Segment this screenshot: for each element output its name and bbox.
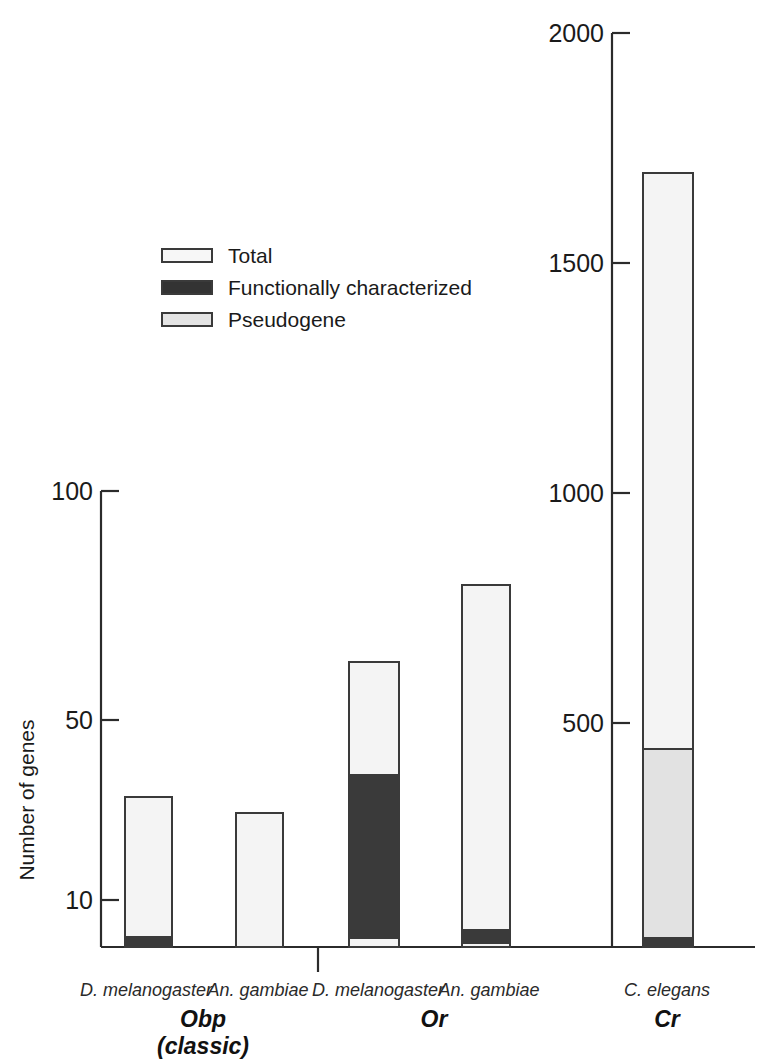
left-axis-title: Number of genes	[15, 719, 38, 880]
legend-item-total[interactable]: Total	[162, 244, 272, 267]
left-tick-label-100: 100	[51, 477, 93, 505]
bar-segment-total[interactable]	[125, 797, 172, 947]
bar-segment-functionally-characterized[interactable]	[349, 775, 399, 938]
bar-segment-pseudogene[interactable]	[643, 749, 693, 947]
bar-obp-an-gambiae[interactable]	[236, 813, 283, 947]
right-tick-label-500: 500	[562, 709, 604, 737]
legend-swatch-pseudogene	[162, 313, 212, 326]
legend-item-pseudogene[interactable]: Pseudogene	[162, 308, 346, 331]
legend-label-functionally-characterized: Functionally characterized	[228, 276, 472, 299]
category-label-or-an-gambiae: An. gambiae	[437, 980, 539, 1000]
bar-segment-functionally-characterized[interactable]	[462, 930, 510, 943]
bar-or-d-melanogaster[interactable]	[349, 662, 399, 947]
group-label-obp-sub: (classic)	[157, 1033, 249, 1059]
bar-obp-d-melanogaster[interactable]	[125, 797, 172, 947]
group-label-or: Or	[421, 1006, 449, 1032]
legend-label-total: Total	[228, 244, 272, 267]
figure-canvas: 100 50 10 Number of genes 2000 1500 1000…	[0, 0, 765, 1060]
legend-item-functionally-characterized[interactable]: Functionally characterized	[162, 276, 472, 299]
category-label-or-d-melanogaster: D. melanogaster	[312, 980, 445, 1000]
group-label-cr: Cr	[654, 1006, 681, 1032]
right-tick-label-1500: 1500	[548, 249, 604, 277]
legend-swatch-functionally-characterized	[162, 281, 212, 294]
left-axis: 100 50 10 Number of genes	[15, 477, 119, 947]
bar-cr-c-elegans[interactable]	[643, 173, 693, 947]
legend-label-pseudogene: Pseudogene	[228, 308, 346, 331]
bar-segment-base[interactable]	[349, 938, 399, 947]
category-label-obp-d-melanogaster: D. melanogaster	[80, 980, 213, 1000]
group-labels: Obp (classic) Or Cr	[157, 1006, 681, 1059]
right-axis: 2000 1500 1000 500	[548, 19, 630, 947]
right-tick-label-1000: 1000	[548, 479, 604, 507]
category-label-obp-an-gambiae: An. gambiae	[206, 980, 308, 1000]
legend: Total Functionally characterized Pseudog…	[162, 244, 472, 331]
left-tick-label-50: 50	[65, 706, 93, 734]
legend-swatch-total	[162, 249, 212, 262]
baseline-axis	[101, 947, 755, 972]
bar-segment-total[interactable]	[236, 813, 283, 947]
bar-segment-base	[462, 943, 510, 947]
bar-segment-total[interactable]	[462, 585, 510, 947]
right-tick-label-2000: 2000	[548, 19, 604, 47]
group-label-obp: Obp	[180, 1006, 226, 1032]
bar-segment-functionally-characterized[interactable]	[125, 937, 172, 947]
left-tick-label-10: 10	[65, 886, 93, 914]
category-label-cr-c-elegans: C. elegans	[624, 980, 710, 1000]
bar-or-an-gambiae[interactable]	[462, 585, 510, 947]
category-labels: D. melanogaster An. gambiae D. melanogas…	[80, 980, 710, 1000]
bar-segment-functionally-characterized[interactable]	[643, 938, 693, 947]
